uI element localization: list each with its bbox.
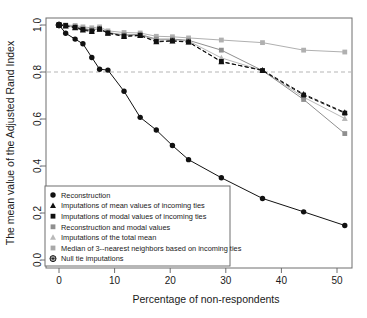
series-marker-0-1 [63,31,68,36]
series-marker-0-3 [80,41,85,46]
series-marker-5-14 [301,48,306,53]
legend-marker-3 [51,224,56,229]
y-tick-label-1: 0.2 [32,206,43,220]
legend-item-6: Null tie imputations [50,254,124,263]
series-marker-0-4 [89,55,94,60]
series-marker-0-12 [219,175,224,180]
chart-figure: 010203040500.00.20.40.60.81.0 Reconstruc… [0,0,367,318]
legend-marker-0 [50,192,55,197]
series-marker-0-8 [137,115,142,120]
series-marker-0-13 [260,196,265,201]
legend-label-2: Imputations of modal values of incoming … [61,212,207,221]
series-marker-0-7 [121,89,126,94]
x-tick-label-4: 40 [276,275,288,286]
x-tick-label-1: 10 [109,275,121,286]
series-marker-0-9 [154,127,159,132]
legend-marker-6-star [50,256,56,262]
x-tick-label-0: 0 [56,275,62,286]
y-axis-title: The mean value of the Adjusted Rand Inde… [4,40,16,245]
series-marker-0-10 [170,143,175,148]
series-marker-3-14 [301,97,306,102]
x-tick-label-3: 30 [220,275,232,286]
series-marker-5-12 [219,38,224,43]
chart-legend: ReconstructionImputations of mean values… [45,186,242,266]
y-tick-label-3: 0.6 [32,112,43,126]
series-marker-5-13 [260,40,265,45]
y-tick-label-5: 1.0 [32,18,43,32]
legend-marker-2 [51,214,56,219]
legend-item-4: Imputations of the total mean [50,233,156,242]
legend-item-1: Imputations of mean values of incoming t… [50,201,205,210]
y-tick-label-4: 0.8 [32,65,43,79]
series-marker-0-2 [72,36,77,41]
legend-label-1: Imputations of mean values of incoming t… [61,201,205,210]
x-tick-label-2: 20 [165,275,177,286]
series-marker-0-14 [301,209,306,214]
legend-item-2: Imputations of modal values of incoming … [51,212,207,221]
legend-label-3: Reconstruction and modal values [61,223,171,232]
legend-label-6: Null tie imputations [61,254,124,263]
legend-label-4: Imputations of the total mean [61,233,156,242]
x-tick-label-5: 50 [331,275,343,286]
legend-label-0: Reconstruction [61,191,110,200]
x-axis-title: Percentage of non-respondents [132,293,279,305]
legend-marker-5 [51,246,56,251]
series-marker-0-11 [186,157,191,162]
legend-item-3: Reconstruction and modal values [51,223,171,232]
y-tick-label-2: 0.4 [32,159,43,173]
legend-item-5: Median of 3--nearest neighbors based on … [51,244,242,253]
series-marker-5-15 [342,50,347,55]
series-marker-0-6 [105,67,110,72]
series-6 [56,22,62,28]
series-marker-6-0-star [56,22,62,28]
legend-label-5: Median of 3--nearest neighbors based on … [61,244,242,253]
series-marker-0-15 [342,223,347,228]
series-marker-3-15 [342,131,347,136]
y-tick-label-0: 0.0 [32,253,43,267]
series-marker-0-5 [97,66,102,71]
series-marker-3-12 [219,48,224,53]
adjusted-rand-index-line-chart: 010203040500.00.20.40.60.81.0 Reconstruc… [0,0,367,318]
